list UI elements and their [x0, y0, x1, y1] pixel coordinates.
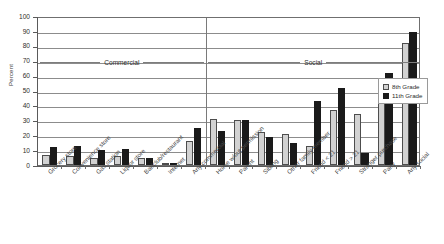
gridline [38, 137, 419, 138]
plot-area: CommercialSocial [37, 17, 420, 166]
x-tick-mark [205, 166, 206, 169]
x-tick-mark [181, 166, 182, 169]
x-tick-mark [324, 166, 325, 169]
gridline [38, 33, 419, 34]
bar [162, 163, 169, 165]
band-rule-right [326, 62, 419, 63]
gridline [38, 78, 419, 79]
x-tick-mark [300, 166, 301, 169]
legend-swatch-icon [383, 93, 389, 99]
x-tick-mark [252, 166, 253, 169]
x-tick-mark [229, 166, 230, 169]
x-tick-mark [157, 166, 158, 169]
y-tick-label: 10 [4, 148, 30, 155]
y-axis-line [37, 17, 38, 166]
y-tick-label: 50 [4, 88, 30, 95]
gridline [38, 122, 419, 123]
x-tick-mark [372, 166, 373, 169]
y-tick-label: 40 [4, 103, 30, 110]
gridline [38, 107, 419, 108]
y-tick-label: 0 [4, 163, 30, 170]
bar [258, 132, 265, 165]
legend-item: 8th Grade [383, 82, 423, 91]
x-tick-mark [420, 166, 421, 169]
bar [42, 155, 49, 165]
x-tick-mark [276, 166, 277, 169]
band-rule-right [143, 62, 203, 63]
y-tick-label: 70 [4, 58, 30, 65]
band-label: Social [300, 59, 326, 66]
bar-chart: Percent 1009080706050403020100 Commercia… [0, 0, 444, 244]
x-tick-mark [61, 166, 62, 169]
gridline [38, 93, 419, 94]
legend-swatch-icon [383, 84, 389, 90]
gridline [38, 48, 419, 49]
legend-label: 11th Grade [392, 92, 423, 99]
x-tick-mark [396, 166, 397, 169]
group-divider [206, 18, 207, 167]
x-tick-mark [133, 166, 134, 169]
band-rule-left [40, 62, 100, 63]
group-band: Commercial [40, 59, 204, 67]
y-tick-label: 80 [4, 43, 30, 50]
bar [186, 141, 193, 165]
bar [338, 88, 345, 165]
x-tick-mark [109, 166, 110, 169]
chart-legend: 8th Grade11th Grade [378, 78, 428, 104]
bar [282, 134, 289, 165]
group-band: Social [208, 59, 419, 67]
y-tick-label: 60 [4, 73, 30, 80]
x-tick-mark [348, 166, 349, 169]
bar [314, 101, 321, 165]
y-tick-label: 30 [4, 118, 30, 125]
band-label: Commercial [100, 59, 143, 66]
y-tick-label: 20 [4, 133, 30, 140]
y-tick-label: 90 [4, 29, 30, 36]
x-tick-mark [85, 166, 86, 169]
band-rule-left [208, 62, 301, 63]
legend-item: 11th Grade [383, 91, 423, 100]
y-tick-label: 100 [4, 14, 30, 21]
legend-label: 8th Grade [392, 83, 420, 90]
